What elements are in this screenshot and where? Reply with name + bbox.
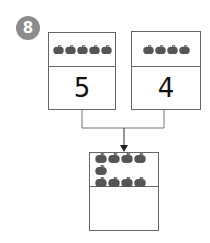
exercise: 8 5 4 [0, 0, 210, 243]
apple-icon [95, 176, 107, 188]
addend-box-2: 4 [131, 31, 201, 110]
sum-answer-field[interactable] [90, 187, 158, 231]
apple-icon [95, 164, 107, 176]
apple-icon [121, 152, 133, 164]
apple-icon [95, 152, 107, 164]
apple-icon [143, 44, 154, 55]
apple-icon [89, 44, 100, 55]
apple-row [132, 32, 200, 67]
apple-icon [134, 176, 146, 188]
apple-icon [179, 44, 190, 55]
apple-icon [108, 176, 120, 188]
apple-icon [167, 44, 178, 55]
addend-number: 5 [49, 67, 115, 109]
apple-icon [121, 176, 133, 188]
apple-icon [155, 44, 166, 55]
sum-box [89, 152, 159, 231]
apple-row [49, 33, 115, 67]
apple-grid [90, 153, 158, 187]
apple-icon [101, 44, 112, 55]
addend-box-1: 5 [48, 32, 116, 110]
apple-icon [65, 44, 76, 55]
apple-icon [53, 44, 64, 55]
apple-icon [134, 152, 146, 164]
apple-icon [108, 152, 120, 164]
addend-number: 4 [132, 67, 200, 109]
apple-icon [77, 44, 88, 55]
